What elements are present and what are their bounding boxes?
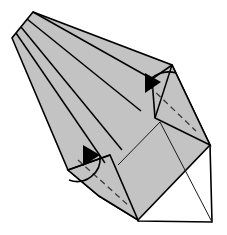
origami-diagram-root xyxy=(0,0,227,235)
origami-figure xyxy=(0,0,227,235)
